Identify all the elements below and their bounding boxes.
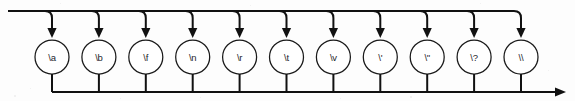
node-esc-backslash: \\ [504, 11, 538, 92]
node-esc-carriage-return: \r [223, 11, 257, 92]
node-label: \f [143, 52, 148, 63]
railroad-diagram: \a\b\f\n\r\t\v\'\"\?\\ [0, 0, 575, 101]
branch-line [514, 11, 521, 30]
branch-arrow-icon [235, 28, 244, 38]
node-label: \\ [519, 52, 524, 63]
branch-arrow-icon [516, 28, 525, 38]
node-label: \r [237, 52, 242, 63]
node-label: \v [330, 52, 337, 63]
branch-line [420, 11, 427, 30]
branch-line [233, 11, 240, 30]
node-label: \t [284, 52, 289, 63]
node-esc-vertical-tab: \v [316, 11, 350, 92]
branch-arrow-icon [47, 28, 56, 38]
branch-line [280, 11, 287, 30]
node-label: \b [95, 52, 103, 63]
branch-line [139, 11, 146, 30]
branch-arrow-icon [423, 28, 432, 38]
node-label: \? [470, 52, 478, 63]
node-esc-single-quote: \' [363, 11, 397, 92]
node-esc-alert: \a [35, 11, 69, 92]
branch-line [373, 11, 380, 30]
node-esc-newline: \n [176, 11, 210, 92]
node-esc-backspace: \b [82, 11, 116, 92]
node-esc-tab: \t [270, 11, 304, 92]
branch-arrow-icon [376, 28, 385, 38]
branch-line [186, 11, 193, 30]
node-label: \" [424, 52, 430, 63]
branch-arrow-icon [470, 28, 479, 38]
branch-line [326, 11, 333, 30]
branch-arrow-icon [141, 28, 150, 38]
exit-arrow-icon [555, 87, 566, 96]
branch-arrow-icon [188, 28, 197, 38]
node-label: \a [48, 52, 56, 63]
node-label: \' [378, 52, 382, 63]
branch-arrow-icon [329, 28, 338, 38]
branch-line [45, 11, 52, 30]
branch-line [92, 11, 99, 30]
branch-arrow-icon [94, 28, 103, 38]
node-esc-double-quote: \" [410, 11, 444, 92]
railroad-diagram-canvas: \a\b\f\n\r\t\v\'\"\?\\ [0, 0, 575, 101]
branch-line [467, 11, 474, 30]
node-esc-question-mark: \? [457, 11, 491, 92]
branch-arrow-icon [282, 28, 291, 38]
node-label: \n [189, 52, 197, 63]
node-esc-formfeed: \f [129, 11, 163, 92]
